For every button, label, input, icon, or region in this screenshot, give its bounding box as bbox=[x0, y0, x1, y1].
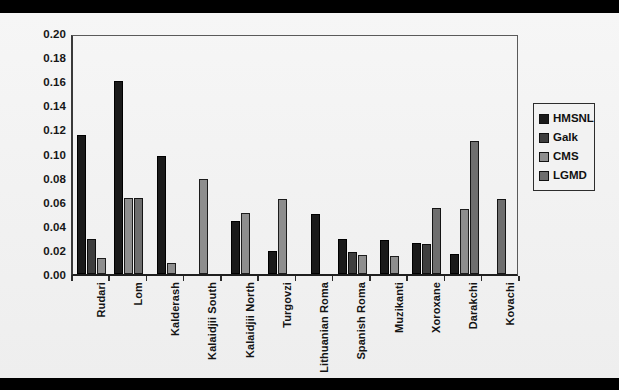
chart-page: 0.200.180.160.140.120.100.080.060.040.02… bbox=[0, 13, 619, 378]
x-axis-label-kovachi: Kovachi bbox=[504, 282, 516, 326]
y-axis-tick-label: 0.12 bbox=[28, 124, 66, 136]
bar-group bbox=[185, 36, 222, 274]
legend-label: Galk bbox=[553, 132, 578, 144]
bar-group bbox=[334, 36, 371, 274]
legend-swatch-hmsnl bbox=[539, 114, 549, 124]
x-axis-tick bbox=[481, 276, 483, 281]
y-axis-tick-label: 0.02 bbox=[28, 245, 66, 257]
x-axis-tick bbox=[146, 276, 148, 281]
bar-lgmd-xoroxane bbox=[432, 208, 441, 274]
bar-group bbox=[110, 36, 147, 274]
y-axis-tick-label: 0.00 bbox=[28, 269, 66, 281]
x-axis-tick bbox=[257, 276, 259, 281]
x-axis-tick bbox=[220, 276, 222, 281]
x-axis-tick bbox=[183, 276, 185, 281]
y-axis-tick-label: 0.06 bbox=[28, 197, 66, 209]
bar-group bbox=[371, 36, 408, 274]
bar-hmsnl-xoroxane bbox=[412, 243, 421, 274]
chart-legend: HMSNLGalkCMSLGMD bbox=[533, 103, 595, 191]
bar-hmsnl-turgovzi bbox=[268, 251, 277, 274]
bar-hmsnl-lom bbox=[114, 81, 123, 274]
bar-hmsnl-lithuanian-roma bbox=[311, 214, 320, 274]
bar-galk-rudari bbox=[87, 239, 96, 274]
bar-cms-darakchi bbox=[460, 209, 469, 274]
y-axis: 0.200.180.160.140.120.100.080.060.040.02… bbox=[22, 35, 66, 276]
legend-item-galk[interactable]: Galk bbox=[539, 128, 590, 147]
x-axis-tick bbox=[295, 276, 297, 281]
bar-group bbox=[446, 36, 483, 274]
top-black-band bbox=[0, 0, 619, 13]
y-axis-tick-label: 0.18 bbox=[28, 52, 66, 64]
bar-group bbox=[148, 36, 185, 274]
bar-cms-spanish-roma bbox=[358, 255, 367, 274]
bar-cms-muzikanti bbox=[390, 256, 399, 274]
bar-cms-kalaidjii-north bbox=[241, 213, 250, 274]
legend-label: CMS bbox=[553, 151, 579, 163]
bar-cms-lom bbox=[124, 198, 133, 274]
x-axis-label-rudari: Rudari bbox=[95, 282, 107, 317]
y-axis-tick-label: 0.20 bbox=[28, 28, 66, 40]
x-axis-label-kalaidjii-north: Kalaidjii North bbox=[244, 282, 256, 358]
plot-area bbox=[71, 35, 518, 276]
bar-cms-turgovzi bbox=[278, 199, 287, 274]
bar-group bbox=[483, 36, 520, 274]
x-axis-label-turgovzi: Turgovzi bbox=[281, 282, 293, 328]
x-axis-label-muzikanti: Muzikanti bbox=[393, 282, 405, 333]
bar-lgmd-kovachi bbox=[497, 199, 506, 274]
x-axis-tick bbox=[518, 276, 520, 281]
bottom-black-band bbox=[0, 378, 619, 390]
y-axis-tick-label: 0.10 bbox=[28, 149, 66, 161]
bar-cms-kalaidjii-south bbox=[199, 179, 208, 274]
bar-hmsnl-darakchi bbox=[450, 254, 459, 274]
legend-label: LGMD bbox=[553, 170, 587, 182]
bar-hmsnl-spanish-roma bbox=[338, 239, 347, 274]
bar-group bbox=[259, 36, 296, 274]
x-axis-label-darakchi: Darakchi bbox=[467, 282, 479, 329]
bar-hmsnl-kalderash bbox=[157, 156, 166, 274]
legend-swatch-galk bbox=[539, 133, 549, 143]
x-axis-label-spanish-roma: Spanish Roma bbox=[355, 282, 367, 360]
bar-cms-kalderash bbox=[167, 263, 176, 274]
x-axis-tick bbox=[71, 276, 73, 281]
bar-hmsnl-rudari bbox=[77, 135, 86, 274]
x-axis-tick bbox=[444, 276, 446, 281]
bar-group bbox=[73, 36, 110, 274]
y-axis-tick-label: 0.04 bbox=[28, 221, 66, 233]
legend-label: HMSNL bbox=[553, 113, 594, 125]
bar-group bbox=[297, 36, 334, 274]
y-axis-tick-label: 0.16 bbox=[28, 76, 66, 88]
legend-item-lgmd[interactable]: LGMD bbox=[539, 166, 590, 185]
legend-swatch-cms bbox=[539, 152, 549, 162]
x-axis-tick bbox=[332, 276, 334, 281]
bar-cms-rudari bbox=[97, 258, 106, 274]
x-axis-label-kalderash: Kalderash bbox=[169, 282, 181, 336]
y-axis-tick-label: 0.08 bbox=[28, 173, 66, 185]
x-axis-tick bbox=[369, 276, 371, 281]
x-axis-labels: RudariLomKalderashKalaidjii SouthKalaidj… bbox=[71, 282, 518, 377]
bar-chart: 0.200.180.160.140.120.100.080.060.040.02… bbox=[0, 13, 619, 378]
bars-layer bbox=[73, 36, 517, 274]
x-axis-label-lithuanian-roma: Lithuanian Roma bbox=[318, 282, 330, 373]
bar-hmsnl-muzikanti bbox=[380, 240, 389, 274]
bar-galk-xoroxane bbox=[422, 244, 431, 274]
bar-lgmd-darakchi bbox=[470, 141, 479, 274]
bar-lgmd-lom bbox=[134, 198, 143, 274]
bar-hmsnl-kalaidjii-north bbox=[231, 221, 240, 274]
screenshot-root: 0.200.180.160.140.120.100.080.060.040.02… bbox=[0, 0, 619, 390]
legend-item-hmsnl[interactable]: HMSNL bbox=[539, 109, 590, 128]
y-axis-tick-label: 0.14 bbox=[28, 100, 66, 112]
bar-group bbox=[408, 36, 445, 274]
x-axis-label-xoroxane: Xoroxane bbox=[430, 282, 442, 333]
legend-swatch-lgmd bbox=[539, 171, 549, 181]
x-axis-tick bbox=[108, 276, 110, 281]
bar-galk-spanish-roma bbox=[348, 252, 357, 274]
x-axis-tick bbox=[406, 276, 408, 281]
legend-item-cms[interactable]: CMS bbox=[539, 147, 590, 166]
x-axis-label-kalaidjii-south: Kalaidjii South bbox=[206, 282, 218, 360]
bar-group bbox=[222, 36, 259, 274]
x-axis-label-lom: Lom bbox=[132, 282, 144, 306]
